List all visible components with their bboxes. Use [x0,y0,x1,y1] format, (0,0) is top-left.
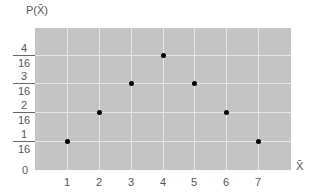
gridline-y-3 [35,83,291,84]
x-tick-2: 2 [91,176,107,188]
plot-area [35,28,291,170]
x-tick-7: 7 [250,176,266,188]
gridline-x-2 [99,28,100,170]
data-point [65,139,70,144]
y-tick-0: 0 [22,164,28,176]
x-axis-title: X̄ [296,160,303,172]
data-point [97,110,102,115]
x-tick-3: 3 [123,176,139,188]
x-tick-6: 6 [218,176,234,188]
y-tick-4: 4 16 [13,42,35,69]
y-axis-title: P(X̄) [26,4,48,16]
data-point [224,110,229,115]
x-tick-5: 5 [186,176,202,188]
x-tick-4: 4 [155,176,171,188]
data-point [256,139,261,144]
gridline-x-1 [67,28,68,170]
y-tick-2: 2 16 [13,99,35,126]
y-tick-1: 1 16 [13,128,35,155]
y-tick-3: 3 16 [13,70,35,97]
gridline-x-3 [131,28,132,170]
gridline-x-4 [163,28,164,170]
gridline-y-2 [35,112,291,113]
x-tick-1: 1 [59,176,75,188]
data-point [161,53,166,58]
gridline-y-1 [35,141,291,142]
data-point [129,81,134,86]
gridline-x-7 [258,28,259,170]
gridline-x-6 [226,28,227,170]
data-point [192,81,197,86]
gridline-x-5 [194,28,195,170]
